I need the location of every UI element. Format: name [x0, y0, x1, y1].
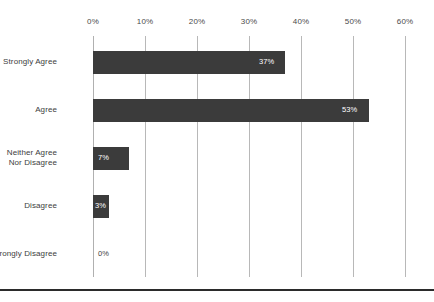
xtick-label-40: 40%: [293, 17, 309, 26]
category-label-strongly-agree: Strongly Agree: [0, 57, 57, 67]
bar-agree[interactable]: [93, 99, 369, 122]
bar-row: Neither Agree Nor Disagree 7%: [93, 136, 405, 180]
category-label-line1: Neither Agree: [0, 148, 57, 158]
category-label-line1: Strongly Disagree: [0, 249, 57, 258]
category-label-neither-agree-nor-disagree: Neither Agree Nor Disagree: [0, 148, 57, 168]
bar-strongly-agree[interactable]: [93, 51, 285, 74]
category-label-line1: Disagree: [24, 201, 57, 210]
bar-row: Agree 53%: [93, 88, 405, 132]
xtick-label-50: 50%: [345, 17, 361, 26]
bar-track: 3%: [93, 195, 405, 218]
category-label-agree: Agree: [0, 105, 57, 115]
bar-value-agree: 53%: [342, 105, 357, 114]
bar-chart-figure: 0% 10% 20% 30% 40% 50% 60% Strongly Agre…: [0, 0, 434, 302]
bar-row: Strongly Agree 37%: [93, 40, 405, 84]
category-label-disagree: Disagree: [0, 201, 57, 211]
xtick-label-60: 60%: [397, 17, 413, 26]
bottom-rule: [0, 289, 434, 291]
bar-track: 53%: [93, 99, 405, 122]
category-label-line1: Agree: [35, 105, 57, 114]
bar-row: Disagree 3%: [93, 184, 405, 228]
plot-area: 0% 10% 20% 30% 40% 50% 60% Strongly Agre…: [93, 36, 405, 277]
category-label-line1: Strongly Agree: [3, 57, 57, 66]
bar-track: 37%: [93, 51, 405, 74]
bar-track: 7%: [93, 147, 405, 170]
xtick-label-0: 0%: [87, 17, 99, 26]
xtick-label-10: 10%: [137, 17, 153, 26]
bar-row: Strongly Disagree 0%: [93, 232, 405, 276]
category-label-line2: Nor Disagree: [0, 158, 57, 168]
gridline-60: [405, 36, 406, 277]
bar-value-strongly-agree: 37%: [259, 57, 274, 66]
bar-value-strongly-disagree: 0%: [98, 249, 109, 258]
bar-track: 0%: [93, 243, 405, 266]
bar-value-disagree: 3%: [95, 201, 106, 210]
xtick-label-30: 30%: [241, 17, 257, 26]
xtick-label-20: 20%: [189, 17, 205, 26]
bar-value-neither-agree-nor-disagree: 7%: [98, 153, 109, 162]
category-label-strongly-disagree: Strongly Disagree: [0, 249, 57, 259]
